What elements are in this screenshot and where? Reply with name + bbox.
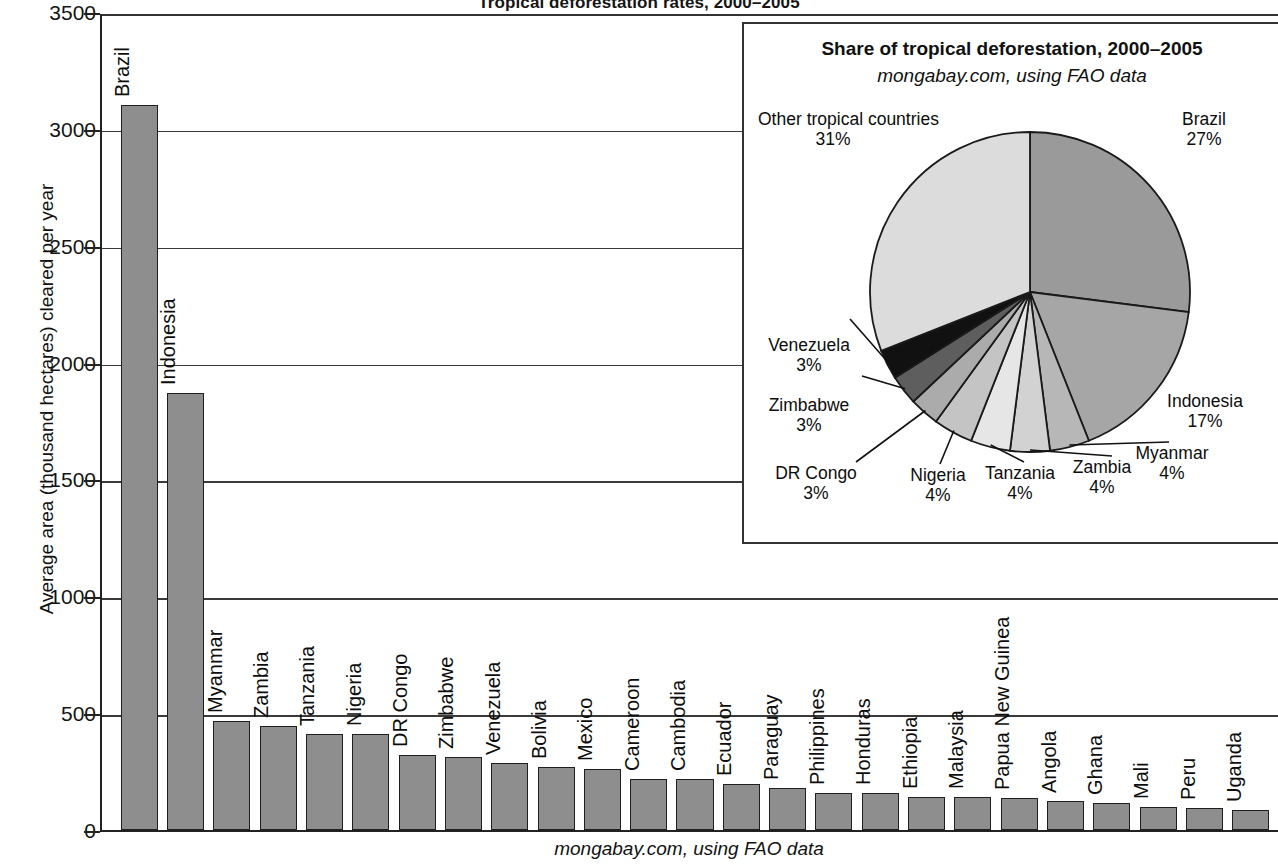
y-axis-tick-mark — [84, 364, 100, 366]
bar-group: Zambia — [255, 12, 301, 830]
bar-group: Zimbabwe — [440, 12, 486, 830]
bar-category-label: Philippines — [807, 689, 827, 786]
bar-category-label: Brazil — [112, 47, 132, 97]
bar[interactable] — [815, 793, 852, 830]
bar-category-label: Nigeria — [344, 663, 364, 726]
bar[interactable] — [862, 793, 899, 830]
pie-slice-label: Other tropical countries31% — [758, 110, 908, 149]
bar[interactable] — [167, 393, 204, 831]
bar-category-label: Venezuela — [483, 661, 503, 754]
pie-slice-name: Zimbabwe — [754, 396, 864, 416]
chart-page: Tropical deforestation rates, 2000–2005 … — [0, 0, 1278, 865]
pie-slice-label: DR Congo3% — [756, 464, 876, 503]
bar-group: Cambodia — [672, 12, 718, 830]
pie-leader-line — [1030, 450, 1112, 456]
bar[interactable] — [121, 105, 158, 830]
bar[interactable] — [676, 779, 713, 830]
bar[interactable] — [1001, 798, 1038, 830]
bar-category-label: Bolivia — [529, 700, 549, 759]
bar-group: Mexico — [579, 12, 625, 830]
y-axis-tick-mark — [84, 714, 100, 716]
pie-chart-inset-panel: Share of tropical deforestation, 2000–20… — [742, 22, 1278, 544]
y-axis-tick-mark — [84, 597, 100, 599]
bar-group: Tanzania — [301, 12, 347, 830]
pie-leader-line — [856, 411, 926, 463]
bar-category-label: Mexico — [575, 698, 595, 761]
bar-category-label: Honduras — [853, 699, 873, 786]
bar[interactable] — [306, 734, 343, 830]
bar[interactable] — [1093, 803, 1130, 830]
pie-slice-value: 17% — [1140, 412, 1270, 432]
chart-source-caption: mongabay.com, using FAO data — [100, 838, 1278, 860]
y-axis-tick-mark — [84, 480, 100, 482]
bar-category-label: Zambia — [251, 651, 271, 718]
pie-slice-name: Other tropical countries — [758, 110, 908, 130]
bar-group: Nigeria — [348, 12, 394, 830]
bar[interactable] — [769, 788, 806, 830]
bar[interactable] — [1186, 808, 1223, 830]
pie-slice[interactable] — [1030, 132, 1190, 312]
y-axis-tick-mark — [84, 130, 100, 132]
bar-group: DR Congo — [394, 12, 440, 830]
bar-group: Myanmar — [209, 12, 255, 830]
bar-group: Venezuela — [487, 12, 533, 830]
bar-group: Indonesia — [162, 12, 208, 830]
y-axis-tick-mark — [84, 247, 100, 249]
pie-slice-name: Indonesia — [1140, 392, 1270, 412]
pie-chart: Brazil27%Indonesia17%Myanmar4%Zambia4%Ta… — [744, 24, 1278, 546]
bar[interactable] — [630, 779, 667, 830]
bar[interactable] — [352, 734, 389, 830]
bar-category-label: Ethiopia — [900, 717, 920, 789]
bar[interactable] — [1140, 807, 1177, 830]
pie-leader-line — [940, 431, 954, 465]
bar[interactable] — [260, 726, 297, 830]
bar-category-label: Papua New Guinea — [992, 616, 1012, 789]
pie-slice-value: 3% — [754, 356, 864, 376]
bar-category-label: Cameroon — [622, 677, 642, 770]
bar[interactable] — [954, 797, 991, 830]
bar[interactable] — [491, 763, 528, 830]
bar-group: Brazil — [116, 12, 162, 830]
bar-category-label: Angola — [1039, 731, 1059, 793]
pie-slice-value: 3% — [756, 484, 876, 504]
y-axis-tick-mark — [84, 13, 100, 15]
pie-slice-value: 3% — [754, 416, 864, 436]
pie-slice-value: 27% — [1144, 130, 1264, 150]
bar-category-label: Myanmar — [205, 630, 225, 713]
bar[interactable] — [1232, 810, 1269, 830]
pie-slice-label: Brazil27% — [1144, 110, 1264, 149]
bar-category-label: Uganda — [1224, 732, 1244, 802]
bar-category-label: Peru — [1178, 758, 1198, 800]
bar[interactable] — [908, 797, 945, 830]
bar[interactable] — [584, 769, 621, 830]
y-axis-ticks: 3500300025002000150010005000 — [0, 0, 96, 865]
bar[interactable] — [213, 721, 250, 830]
bar-category-label: Ghana — [1085, 735, 1105, 795]
bar[interactable] — [399, 755, 436, 830]
pie-slice-name: DR Congo — [756, 464, 876, 484]
bar-category-label: Cambodia — [668, 680, 688, 771]
bar[interactable] — [538, 767, 575, 830]
pie-slice-label: Nigeria4% — [888, 466, 988, 505]
bar-category-label: Mali — [1131, 762, 1151, 799]
bar-category-label: Indonesia — [158, 298, 178, 385]
bar[interactable] — [1047, 801, 1084, 830]
pie-slice-label: Venezuela3% — [754, 336, 864, 375]
bar-category-label: DR Congo — [390, 654, 410, 747]
pie-slice-value: 4% — [888, 486, 988, 506]
bar-category-label: Paraguay — [761, 695, 781, 781]
y-axis-tick-mark — [84, 831, 100, 833]
bar-category-label: Zimbabwe — [436, 657, 456, 749]
bar[interactable] — [445, 757, 482, 830]
pie-slice-name: Brazil — [1144, 110, 1264, 130]
bar-group: Cameroon — [626, 12, 672, 830]
pie-slice-value: 31% — [758, 130, 908, 150]
bar-category-label: Tanzania — [297, 646, 317, 726]
bar[interactable] — [723, 784, 760, 830]
pie-slice-label: Indonesia17% — [1140, 392, 1270, 431]
pie-slice-label: Zimbabwe3% — [754, 396, 864, 435]
bar-category-label: Malaysia — [946, 710, 966, 789]
pie-slice-name: Nigeria — [888, 466, 988, 486]
pie-slice-name: Venezuela — [754, 336, 864, 356]
bar-category-label: Ecuador — [714, 701, 734, 776]
